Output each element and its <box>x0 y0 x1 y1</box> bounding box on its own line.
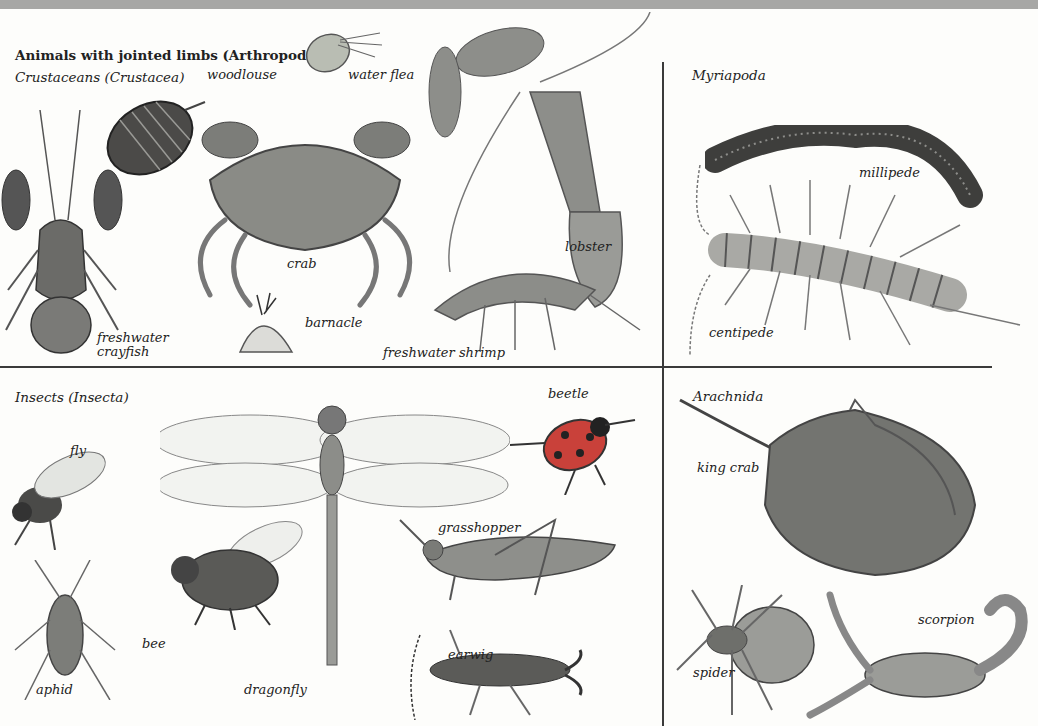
section-heading-insects: Insects (Insecta) <box>15 389 129 405</box>
scorpion-illustration <box>800 585 1038 720</box>
label-freshwater-crayfish-line2: crayfish <box>97 344 149 359</box>
label-freshwater-shrimp: freshwater shrimp <box>383 345 505 360</box>
crab-illustration <box>170 100 440 310</box>
king-crab-illustration <box>675 395 995 585</box>
label-beetle: beetle <box>548 386 589 401</box>
label-grasshopper: grasshopper <box>438 520 520 535</box>
freshwater-crayfish-illustration <box>0 110 130 360</box>
label-earwig: earwig <box>448 647 493 662</box>
label-bee: bee <box>142 636 166 651</box>
label-spider: spider <box>693 665 734 680</box>
label-centipede: centipede <box>709 325 774 340</box>
freshwater-shrimp-illustration <box>405 250 645 360</box>
label-scorpion: scorpion <box>918 612 975 627</box>
earwig-illustration <box>400 625 600 720</box>
beetle-illustration <box>510 395 640 495</box>
label-lobster: lobster <box>565 239 611 254</box>
label-woodlouse: woodlouse <box>207 67 277 82</box>
label-millipede: millipede <box>859 165 920 180</box>
section-heading-myriapoda: Myriapoda <box>692 67 766 83</box>
label-dragonfly: dragonfly <box>244 682 307 697</box>
label-barnacle: barnacle <box>305 315 363 330</box>
page-title: Animals with jointed limbs (Arthropoda) <box>15 47 322 63</box>
fly-illustration <box>0 430 120 550</box>
label-water-flea: water flea <box>348 67 414 82</box>
top-strip <box>0 0 1038 9</box>
horizontal-divider <box>0 366 992 368</box>
vertical-divider <box>662 62 664 726</box>
label-crab: crab <box>287 256 317 271</box>
label-fly: fly <box>70 443 86 458</box>
label-aphid: aphid <box>36 682 73 697</box>
barnacle-illustration <box>232 290 302 360</box>
label-king-crab: king crab <box>697 460 759 475</box>
aphid-illustration <box>10 560 120 700</box>
bee-illustration <box>155 520 305 630</box>
label-freshwater-crayfish-line1: freshwater <box>97 330 169 345</box>
